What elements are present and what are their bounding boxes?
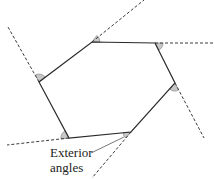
- extension-d: [92, 132, 131, 178]
- dashed-extension-lines: [7, 0, 214, 178]
- hexagon-diagram: [0, 0, 214, 179]
- exterior-label-line2: angles: [50, 160, 83, 175]
- diagram-canvas: Exterior angles: [0, 0, 214, 179]
- label-leader-line: [91, 137, 124, 153]
- extension-e: [7, 138, 69, 145]
- exterior-label-line1: Exterior: [50, 145, 93, 160]
- extension-c: [175, 83, 204, 138]
- exterior-angle-wedges: [35, 36, 178, 140]
- extension-a: [92, 0, 144, 42]
- extension-f: [8, 27, 39, 82]
- hexagon-outline: [39, 42, 175, 138]
